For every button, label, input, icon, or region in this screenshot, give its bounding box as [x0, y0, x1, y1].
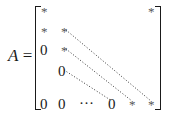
upper-diagonal	[66, 30, 151, 101]
lower-diagonal	[64, 70, 112, 101]
main-diagonal	[66, 49, 132, 101]
diagonal-dotted-lines	[0, 0, 173, 119]
